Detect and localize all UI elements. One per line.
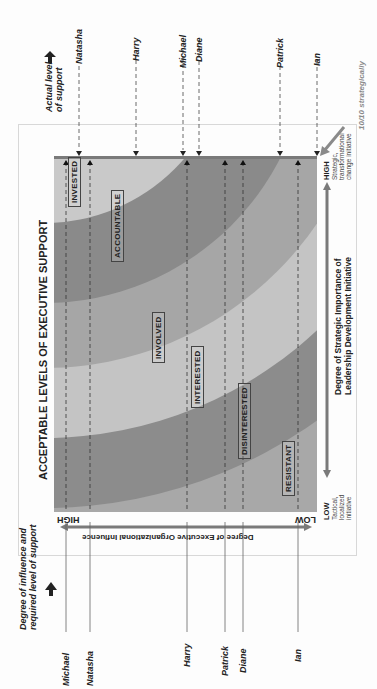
strategic-low-desc-1: Tactical, — [331, 495, 338, 520]
required-name-patrick: Patrick — [220, 646, 230, 676]
zone-interested: INTERESTED — [191, 346, 204, 408]
required-support-header: Degree of influence and required level o… — [18, 524, 38, 630]
strategic-axis-arrow — [322, 182, 332, 478]
strategic-label-line2: Leadership Development Initiative — [343, 257, 353, 395]
required-name-diane: Diane — [238, 648, 248, 673]
strategic-axis-label: Degree of Strategic Importance of Leader… — [333, 257, 353, 395]
actual-name-diane: Diane — [194, 37, 204, 62]
actual-support-lines — [54, 0, 334, 158]
strategic-low-label: LOW — [322, 495, 331, 520]
zone-invested: INVESTED — [68, 157, 81, 207]
strategic-high-desc-3: change initiative — [345, 133, 352, 180]
support-bands — [54, 158, 317, 512]
required-name-michael: Michael — [61, 653, 71, 686]
chart-title: ACCEPTABLE LEVELS OF EXECUTIVE SUPPORT — [37, 220, 49, 480]
required-header-line2: required level of support — [28, 524, 38, 630]
actual-name-patrick: Patrick — [275, 38, 285, 68]
strategic-low-desc-2: localized — [338, 495, 345, 520]
strategic-label-line1: Degree of Strategic Importance of — [333, 257, 343, 395]
required-name-harry: Harry — [182, 643, 192, 667]
zone-disinterested: DISINTERESTED — [238, 383, 251, 459]
plot-area — [54, 158, 317, 512]
actual-name-harry: Harry — [131, 37, 141, 61]
required-support-lines — [54, 512, 317, 647]
zone-resistant: RESISTANT — [282, 441, 295, 496]
required-header-line1: Degree of influence and — [18, 524, 28, 630]
actual-name-michael: Michael — [178, 35, 188, 68]
zone-accountable: ACCOUNTABLE — [111, 190, 124, 262]
actual-header-line1: Actual level — [44, 62, 54, 112]
required-name-ian: Ian — [293, 649, 303, 662]
actual-name-natasha: Natasha — [74, 29, 84, 64]
required-name-natasha: Natasha — [85, 651, 95, 686]
zone-involved: INVOLVED — [152, 312, 165, 363]
annotation-10-10: 10/10 strategically — [357, 61, 366, 130]
strategic-low: LOW Tactical, localized initiative — [322, 495, 352, 520]
actual-name-ian: Ian — [312, 53, 322, 66]
strategic-low-desc-3: initiative — [345, 495, 352, 520]
